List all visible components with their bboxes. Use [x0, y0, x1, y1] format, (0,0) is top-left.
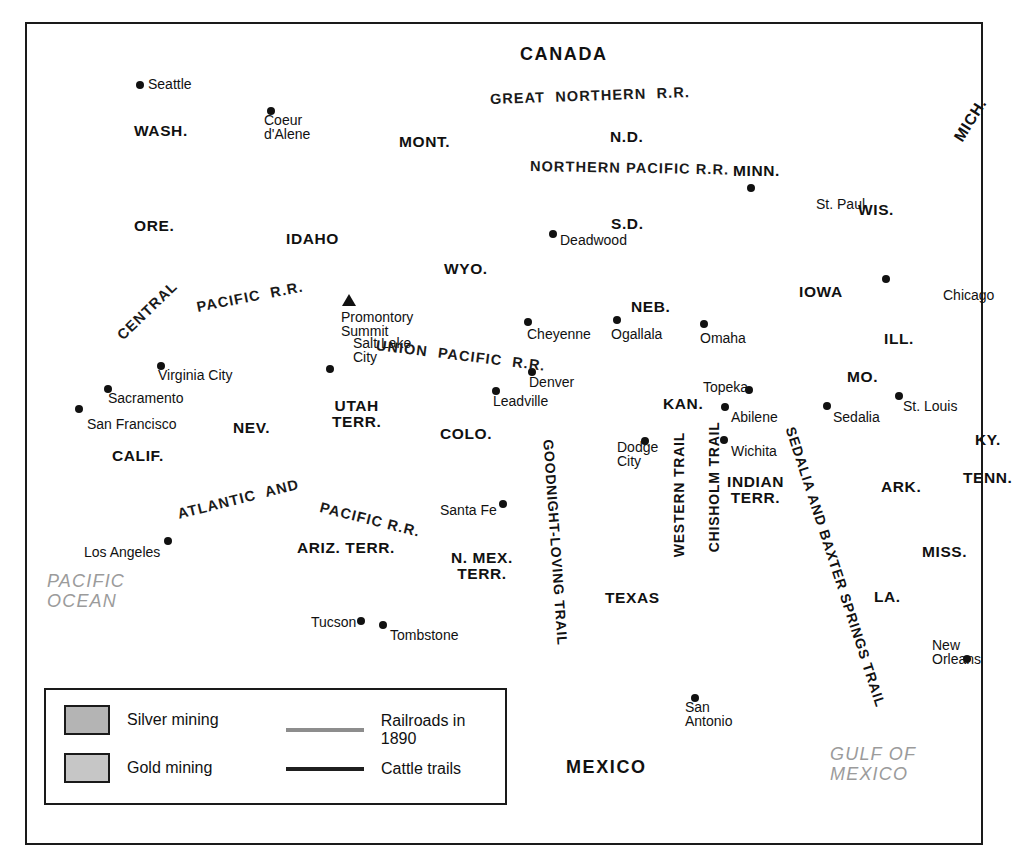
state-label-calif: CALIF.	[112, 448, 164, 464]
railroad-line-sample	[286, 728, 364, 732]
city-dot-st-paul	[747, 184, 755, 192]
city-dot-tucson	[357, 617, 365, 625]
state-label-mont: MONT.	[399, 134, 450, 150]
city-dot-san-francisco	[75, 405, 83, 413]
legend-label-cattle-trails: Cattle trails	[381, 760, 461, 778]
city-label-seattle: Seattle	[148, 77, 192, 91]
city-label-deadwood: Deadwood	[560, 233, 627, 247]
city-label-dodge-city: Dodge City	[617, 440, 658, 469]
city-label-st-paul: St. Paul	[816, 197, 865, 211]
ocean-label-pacific-ocean: PACIFIC OCEAN	[47, 572, 125, 612]
city-label-cheyenne: Cheyenne	[527, 327, 591, 341]
city-label-san-antonio: San Antonio	[685, 700, 732, 729]
state-label-utah-terr: UTAH TERR.	[332, 398, 382, 431]
state-label-ore: ORE.	[134, 218, 174, 234]
state-label-ariz-terr: ARIZ. TERR.	[297, 540, 395, 556]
state-label-la: LA.	[874, 589, 901, 605]
city-label-tombstone: Tombstone	[390, 628, 458, 642]
city-label-tucson: Tucson	[311, 615, 356, 629]
city-dot-san-antonio	[691, 694, 699, 702]
legend-item-silver: Silver mining	[64, 705, 219, 735]
legend-label-railroads: Railroads in 1890	[381, 712, 505, 748]
city-dot-ogallala	[613, 316, 621, 324]
state-label-ark: ARK.	[881, 479, 921, 495]
city-label-chicago: Chicago	[943, 288, 994, 302]
city-dot-sacramento	[104, 385, 112, 393]
city-label-los-angeles: Los Angeles	[84, 545, 160, 559]
city-dot-virginia-city	[157, 362, 165, 370]
state-label-colo: COLO.	[440, 426, 492, 442]
state-label-n-mex-terr: N. MEX. TERR.	[451, 550, 513, 583]
city-label-santa-fe: Santa Fe	[440, 503, 497, 517]
city-dot-abilene	[721, 403, 729, 411]
state-label-wash: WASH.	[134, 123, 188, 139]
state-label-texas: TEXAS	[605, 590, 660, 606]
state-label-iowa: IOWA	[799, 284, 843, 300]
trail-label-chisholm-trail: CHISHOLM TRAIL	[707, 421, 722, 552]
state-label-kan: KAN.	[663, 396, 703, 412]
city-dot-tombstone	[379, 621, 387, 629]
city-dot-sedalia	[823, 402, 831, 410]
legend-item-cattle-trails: Cattle trails	[286, 760, 461, 778]
legend-label-gold: Gold mining	[127, 759, 212, 777]
state-label-indian-terr: INDIAN TERR.	[727, 474, 784, 507]
state-label-mo: MO.	[847, 369, 878, 385]
city-dot-dodge-city	[641, 437, 649, 445]
city-dot-santa-fe	[499, 500, 507, 508]
city-label-sacramento: Sacramento	[108, 391, 183, 405]
city-label-sedalia: Sedalia	[833, 410, 880, 424]
state-label-minn: MINN.	[733, 163, 780, 179]
city-dot-salt-lake-city	[326, 365, 334, 373]
city-dot-omaha	[700, 320, 708, 328]
ocean-label-gulf-of-mexico: GULF OF MEXICO	[830, 745, 916, 785]
legend-item-railroads: Railroads in 1890	[286, 712, 505, 748]
cattle-trail-line-sample	[286, 767, 364, 771]
city-dot-los-angeles	[164, 537, 172, 545]
city-label-abilene: Abilene	[731, 410, 778, 424]
city-label-st-louis: St. Louis	[903, 399, 957, 413]
state-label-miss: MISS.	[922, 544, 967, 560]
city-dot-cheyenne	[524, 318, 532, 326]
city-label-virginia-city: Virginia City	[158, 368, 232, 382]
city-dot-new-orleans	[963, 655, 971, 663]
state-label-nev: NEV.	[233, 420, 270, 436]
city-dot-leadville	[492, 387, 500, 395]
state-label-neb: NEB.	[631, 299, 670, 315]
city-label-omaha: Omaha	[700, 331, 746, 345]
legend-item-gold: Gold mining	[64, 753, 212, 783]
city-dot-seattle	[136, 81, 144, 89]
city-dot-coeur-d-alene	[267, 107, 275, 115]
state-label-wyo: WYO.	[444, 261, 488, 277]
city-dot-chicago	[882, 275, 890, 283]
city-label-wichita: Wichita	[731, 444, 777, 458]
city-label-new-orleans: New Orleans	[932, 638, 981, 667]
trail-label-western-trail: WESTERN TRAIL	[672, 432, 687, 558]
city-label-san-francisco: San Francisco	[87, 417, 176, 431]
city-label-topeka: Topeka	[703, 380, 748, 394]
gold-mining-swatch	[64, 753, 110, 783]
city-label-coeur-d-alene: Coeur d'Alene	[264, 113, 310, 142]
silver-mining-swatch	[64, 705, 110, 735]
state-label-n-d: N.D.	[610, 129, 643, 145]
city-dot-topeka	[745, 386, 753, 394]
legend-label-silver: Silver mining	[127, 711, 219, 729]
city-label-ogallala: Ogallala	[611, 327, 662, 341]
country-label-canada: CANADA	[520, 45, 608, 64]
state-label-ky: KY.	[975, 432, 1001, 448]
promontory-summit-marker	[342, 294, 356, 306]
city-dot-deadwood	[549, 230, 557, 238]
state-label-idaho: IDAHO	[286, 231, 339, 247]
state-label-s-d: S.D.	[611, 216, 644, 232]
state-label-ill: ILL.	[884, 331, 914, 347]
country-label-mexico: MEXICO	[566, 758, 647, 777]
map-legend: Silver mining Gold mining Railroads in 1…	[44, 688, 507, 805]
state-label-tenn: TENN.	[963, 470, 1013, 486]
city-label-leadville: Leadville	[493, 394, 548, 408]
city-label-denver: Denver	[529, 375, 574, 389]
city-dot-st-louis	[895, 392, 903, 400]
